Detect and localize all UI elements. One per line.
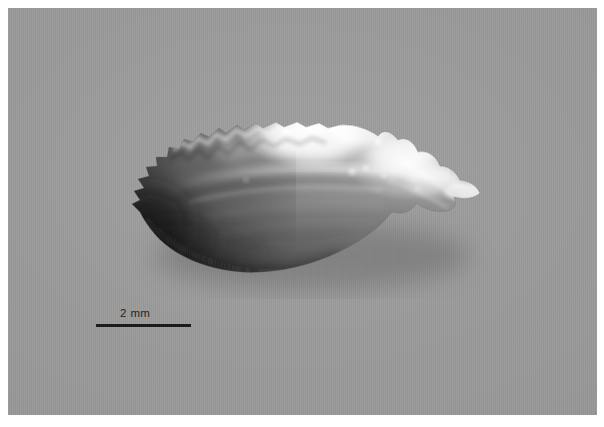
otolith-illustration [116, 84, 496, 299]
scale-bar-line [96, 324, 191, 327]
specimen-photograph: 2 mm [8, 8, 597, 415]
scale-bar-label: 2 mm [120, 306, 150, 320]
scale-bar: 2 mm [96, 306, 192, 330]
page-root: 2 mm [0, 0, 604, 427]
otolith-specimen [116, 84, 496, 299]
